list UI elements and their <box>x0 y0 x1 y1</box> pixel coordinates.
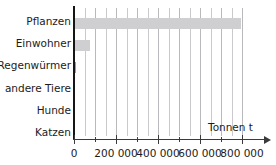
category-label-einwohner: Einwohner <box>16 38 71 49</box>
bar-einwohner <box>74 40 90 51</box>
bar-pflanzen <box>74 18 241 29</box>
x-axis-title: Tonnen t <box>208 121 253 133</box>
x-tick-label: 0 <box>71 147 78 159</box>
category-label-regenwuermer: Regenwürmer <box>0 60 71 71</box>
y-axis-line <box>73 6 75 139</box>
category-label-katzen: Katzen <box>35 127 71 138</box>
x-axis-arrow-icon <box>264 136 271 144</box>
category-label-hunde: Hunde <box>37 105 71 116</box>
x-axis-line <box>73 139 266 140</box>
x-tick <box>200 135 201 144</box>
plot-area <box>74 8 251 136</box>
x-tick-label: 800 000 <box>220 147 263 159</box>
x-tick-label: 400 000 <box>136 147 179 159</box>
gridline <box>242 8 243 136</box>
x-tick <box>95 137 96 142</box>
category-label-pflanzen: Pflanzen <box>26 16 71 27</box>
x-tick <box>116 135 117 144</box>
x-tick <box>74 135 75 144</box>
x-tick <box>179 137 180 142</box>
bar-chart: Pflanzen Einwohner Regenwürmer andere Ti… <box>0 0 276 165</box>
x-tick-label: 200 000 <box>94 147 137 159</box>
x-tick <box>221 137 222 142</box>
x-tick <box>158 135 159 144</box>
category-label-andere-tiere: andere Tiere <box>5 83 71 94</box>
x-tick <box>242 135 243 144</box>
x-tick-label: 600 000 <box>178 147 221 159</box>
x-tick <box>137 137 138 142</box>
